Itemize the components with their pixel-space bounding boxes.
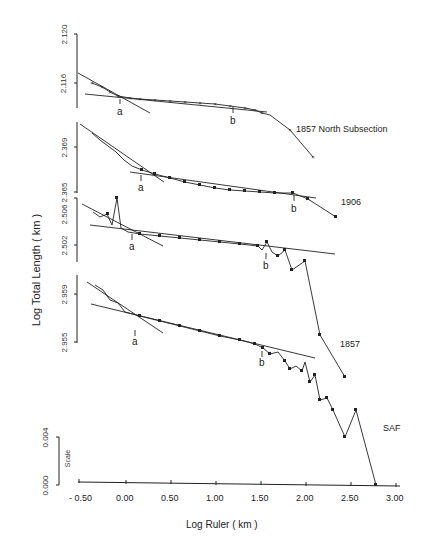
- series-1906: [80, 124, 337, 218]
- svg-text:×: ×: [90, 80, 94, 86]
- svg-text:×: ×: [311, 154, 315, 160]
- svg-text:×: ×: [288, 127, 292, 133]
- scale-tick-top: 0.004: [41, 427, 50, 447]
- series-label-1906: 1906: [341, 197, 361, 207]
- x-tick-250: 2.50: [341, 493, 359, 503]
- y-tick-2502: 2.502: [60, 235, 69, 255]
- y-tick-2506: 2.506: [60, 204, 69, 224]
- scale-tick-bottom: 0.000: [41, 475, 50, 495]
- svg-text:×: ×: [198, 100, 202, 106]
- fractal-length-chart: ×××× ×××× ×××× ×××××: [0, 0, 434, 558]
- svg-text:×: ×: [100, 84, 104, 90]
- series-saf: [87, 282, 377, 486]
- breakpoint-a-panel1: a: [117, 106, 123, 117]
- x-tick-050: 0.50: [161, 493, 179, 503]
- x-tick-100: 1.00: [206, 493, 224, 503]
- y-tick-2116: 2.116: [59, 74, 68, 93]
- series-1857: [82, 196, 346, 378]
- series-label-1857: 1857: [340, 339, 360, 349]
- x-axis-title: Log Ruler ( km ): [186, 519, 258, 530]
- y-tick-2959: 2.959: [60, 284, 69, 304]
- y-axis-title: Log Total Length ( km ): [30, 214, 42, 326]
- scale-title: Scale: [64, 450, 71, 468]
- svg-text:×: ×: [108, 89, 112, 95]
- breakpoint-a-panel4: a: [132, 336, 138, 347]
- y-tick-2120: 2.120: [60, 24, 69, 44]
- svg-text:×: ×: [228, 103, 232, 109]
- x-tick-150: 1.50: [251, 493, 269, 503]
- x-tick-neg050: - 0.50: [69, 493, 92, 503]
- y-tick-2955: 2.955: [60, 332, 69, 352]
- breakpoint-b-panel2: b: [291, 203, 297, 214]
- x-tick-000: 0.00: [116, 493, 134, 503]
- x-tick-200: 2.00: [296, 493, 314, 503]
- breakpoint-a-panel2: a: [138, 182, 144, 193]
- svg-text:×: ×: [243, 105, 247, 111]
- svg-text:×: ×: [213, 101, 217, 107]
- x-tick-300: 3.00: [386, 493, 404, 503]
- svg-text:×: ×: [138, 96, 142, 102]
- svg-text:×: ×: [153, 97, 157, 103]
- series-label-1857-north: 1857 North Subsection: [296, 124, 388, 134]
- series-label-saf: SAF: [383, 423, 401, 433]
- breakpoint-b-panel1: b: [230, 115, 236, 126]
- breakpoint-b-panel3: b: [263, 260, 269, 271]
- svg-text:×: ×: [116, 93, 120, 99]
- svg-text:×: ×: [128, 95, 132, 101]
- breakpoint-a-panel3: a: [129, 241, 135, 252]
- svg-text:×: ×: [183, 99, 187, 105]
- y-tick-2365: 2.365: [60, 182, 69, 202]
- svg-text:×: ×: [168, 98, 172, 104]
- svg-text:×: ×: [260, 110, 264, 116]
- svg-text:×: ×: [253, 107, 257, 113]
- breakpoint-b-panel4: b: [259, 357, 265, 368]
- y-tick-2369: 2.369: [60, 137, 69, 157]
